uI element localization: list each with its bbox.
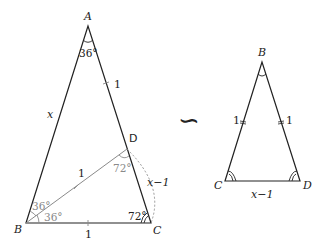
side-label-bc-right: 1 [233, 114, 240, 127]
side-label-dc: x−1 [147, 176, 169, 189]
side-label-bd-right: 1 [286, 114, 293, 127]
tick-bd-right-1 [278, 121, 284, 122]
angle-arc-d [119, 155, 129, 158]
angle-arc-d-right-inner [292, 174, 296, 181]
angle-arc-a [84, 41, 93, 43]
side-label-bd: 1 [78, 167, 85, 180]
triangle-abc: A B C D x 1 1 1 x−1 36° 36° 36° 72° 72° [13, 10, 169, 241]
angle-arc-b-right [258, 74, 266, 76]
vertex-label-b: B [13, 223, 22, 236]
similarity-symbol: ∽ [178, 105, 200, 135]
angle-arc-d-right-outer [289, 171, 297, 181]
diagram-svg: A B C D x 1 1 1 x−1 36° 36° 36° 72° 72° … [0, 0, 328, 251]
angle-arc-b-lower [37, 215, 39, 223]
tick-bc-right-1 [240, 121, 246, 122]
vertex-label-d: D [129, 132, 137, 145]
angle-label-a: 36° [79, 47, 98, 59]
tick-bd-right-2 [278, 123, 284, 124]
vertex-label-b-right: B [257, 46, 266, 59]
similar-triangles-diagram: A B C D x 1 1 1 x−1 36° 36° 36° 72° 72° … [0, 0, 328, 251]
vertex-label-c-right: C [214, 179, 223, 192]
angle-label-d: 72° [113, 162, 132, 174]
side-label-ab: x [47, 108, 54, 121]
triangle-bcd: B C D 1 1 x−1 [214, 46, 312, 201]
side-label-cd-right: x−1 [251, 188, 273, 201]
side-label-bc: 1 [85, 228, 92, 241]
vertex-label-c: C [153, 224, 162, 237]
angle-label-c: 72° [128, 210, 147, 222]
vertex-label-d-right: D [302, 179, 312, 192]
tick-bc-right-2 [240, 123, 246, 124]
angle-label-b-lower: 36° [44, 211, 63, 223]
vertex-label-a: A [83, 10, 92, 23]
side-label-ad: 1 [114, 78, 121, 91]
angle-arc-c-right-inner [229, 174, 233, 181]
angle-arc-c-right-outer [228, 171, 236, 181]
